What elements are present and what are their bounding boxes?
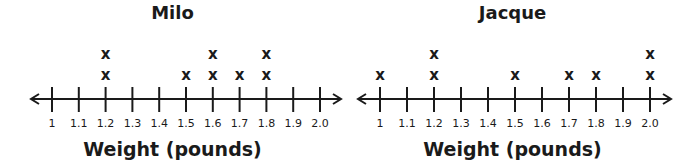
x-marker: x xyxy=(510,66,520,84)
x-marker: x xyxy=(208,66,218,84)
dot-plot-milo: Milo 11.11.2xx1.31.41.5x1.6xx1.7x1.8xx1.… xyxy=(0,0,345,166)
tick-label: 1.7 xyxy=(560,117,578,130)
tick-label: 1 xyxy=(49,117,56,130)
tick-label: 1 xyxy=(377,117,384,130)
x-marker: x xyxy=(429,45,439,63)
tick-label: 1.8 xyxy=(587,117,605,130)
tick-label: 2.0 xyxy=(641,117,659,130)
tick-label: 1.6 xyxy=(533,117,551,130)
tick-label: 1.1 xyxy=(70,117,88,130)
tick-label: 2.0 xyxy=(311,117,329,130)
tick-label: 1.8 xyxy=(258,117,276,130)
tick-label: 1.9 xyxy=(614,117,632,130)
tick-label: 1.5 xyxy=(506,117,524,130)
x-marker: x xyxy=(564,66,574,84)
x-marker: x xyxy=(235,66,245,84)
x-marker: x xyxy=(645,45,655,63)
x-marker: x xyxy=(101,66,111,84)
x-marker: x xyxy=(429,66,439,84)
tick-label: 1.2 xyxy=(97,117,115,130)
tick-label: 1.7 xyxy=(231,117,249,130)
x-marker: x xyxy=(208,45,218,63)
x-marker: x xyxy=(181,66,191,84)
tick-label: 1.5 xyxy=(177,117,195,130)
tick-label: 1.2 xyxy=(425,117,443,130)
x-axis-label: Weight (pounds) xyxy=(0,138,345,160)
tick-label: 1.4 xyxy=(479,117,497,130)
dot-plot-jacque: Jacque 1x1.11.2xx1.31.41.5x1.61.7x1.8x1.… xyxy=(340,0,685,166)
tick-label: 1.3 xyxy=(452,117,470,130)
x-axis-label: Weight (pounds) xyxy=(340,138,685,160)
x-marker: x xyxy=(645,66,655,84)
tick-label: 1.4 xyxy=(150,117,168,130)
tick-label: 1.3 xyxy=(124,117,142,130)
x-marker: x xyxy=(375,66,385,84)
tick-label: 1.9 xyxy=(284,117,302,130)
x-marker: x xyxy=(262,45,272,63)
tick-label: 1.1 xyxy=(398,117,416,130)
x-marker: x xyxy=(101,45,111,63)
x-marker: x xyxy=(591,66,601,84)
tick-label: 1.6 xyxy=(204,117,222,130)
x-marker: x xyxy=(262,66,272,84)
